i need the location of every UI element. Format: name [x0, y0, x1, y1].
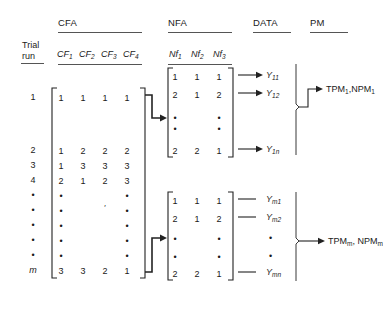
- pm-brace-bottom: [0, 0, 383, 313]
- pm-label-bottom: TPMm, NPMm: [328, 237, 383, 246]
